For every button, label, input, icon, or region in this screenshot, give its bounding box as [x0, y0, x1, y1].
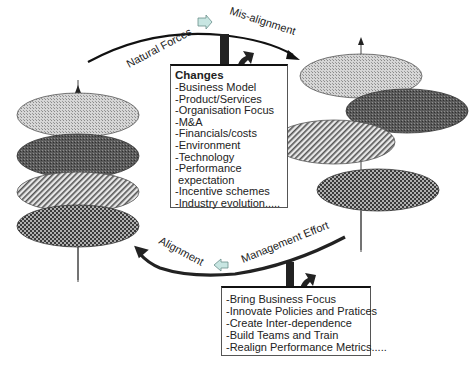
- management-effort-box: -Bring Business Focus -Innovate Policies…: [221, 286, 371, 356]
- left-axis-arrow-icon: [75, 85, 81, 93]
- changes-box: Changes -Business Model -Product/Service…: [170, 64, 288, 208]
- changes-item: -Business Model: [175, 82, 287, 94]
- forward-direction-arrow-icon: [198, 15, 212, 29]
- right-axis-arrow-icon: [358, 37, 364, 45]
- backward-direction-arrow-icon: [214, 259, 228, 271]
- left-disc-stack: [17, 80, 139, 282]
- right-disc-hatched: [273, 120, 395, 164]
- changes-item: -Environment: [175, 140, 287, 152]
- effort-item: -Bring Business Focus: [226, 293, 370, 305]
- left-disc-light: [17, 93, 139, 137]
- effort-item: -Innovate Policies and Pratices: [226, 305, 370, 317]
- left-disc-checkered: [17, 205, 139, 247]
- bottom-support-post: [286, 262, 294, 288]
- misalignment-label: Mis-alignment: [228, 4, 297, 37]
- misalignment-arrow-head-icon: [286, 50, 300, 60]
- effort-item: -Create Inter-dependence: [226, 317, 370, 329]
- alignment-label: Alignment: [157, 234, 206, 268]
- management-effort-label: Management Effort: [239, 219, 330, 265]
- changes-item: -Performance: [175, 163, 287, 175]
- top-support-post: [220, 34, 229, 64]
- changes-item: -Industry evolution.....: [175, 198, 287, 210]
- left-disc-dark: [17, 134, 139, 178]
- effort-item: -Build Teams and Train: [226, 329, 370, 341]
- right-disc-checkered: [317, 169, 439, 211]
- right-disc-stack: [273, 37, 468, 252]
- effort-item: -Realign Performance Metrics.....: [226, 341, 370, 353]
